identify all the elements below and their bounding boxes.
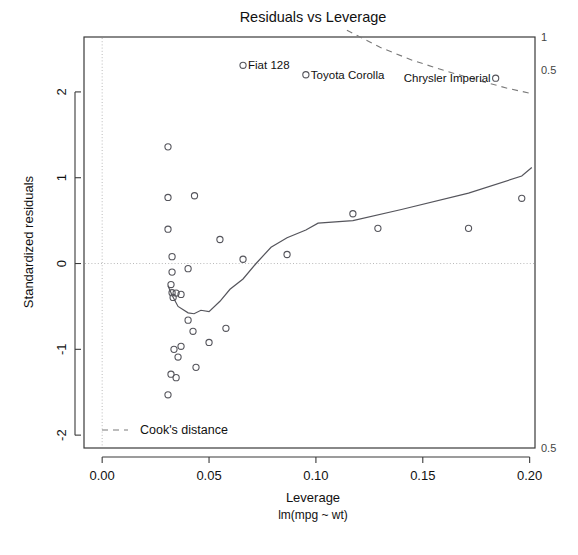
x-axis-tick-label: 0.15 (410, 468, 435, 483)
cooks-contour-value-label: 1 (541, 31, 547, 43)
data-point (240, 62, 246, 68)
data-point (465, 225, 471, 231)
data-point (519, 195, 525, 201)
outlier-labels: Fiat 128Toyota CorollaChrysler Imperial (248, 59, 491, 84)
x-axis-tick-label: 0.10 (303, 468, 328, 483)
cooks-contour-value-labels: 10.50.5 (541, 31, 556, 454)
data-point (303, 72, 309, 78)
data-point (223, 325, 229, 331)
y-axis-tick-label: 1 (55, 174, 70, 181)
data-point (350, 211, 356, 217)
cooks-contour-value-label: 0.5 (541, 442, 556, 454)
x-axis-tick-label: 0.00 (90, 468, 115, 483)
x-axis: 0.000.050.100.150.20 (90, 457, 543, 483)
data-point (206, 339, 212, 345)
plot-panel-border (84, 37, 535, 448)
data-point (185, 266, 191, 272)
cooks-contour-value-label: 0.5 (541, 64, 556, 76)
chart-canvas: Fiat 128Toyota CorollaChrysler Imperial … (0, 0, 578, 555)
data-point (240, 256, 246, 262)
y-axis-tick-label: -2 (55, 429, 70, 441)
data-point (493, 75, 499, 81)
data-point (165, 194, 171, 200)
x-axis-tick-label: 0.05 (196, 468, 221, 483)
x-axis-subtitle: lm(mpg ~ wt) (278, 508, 348, 522)
data-point (190, 328, 196, 334)
data-point (217, 236, 223, 242)
chart-title: Residuals vs Leverage (240, 9, 387, 25)
point-label: Toyota Corolla (311, 69, 385, 81)
x-axis-tick-label: 0.20 (517, 468, 542, 483)
data-point (169, 254, 175, 260)
data-point (165, 144, 171, 150)
data-point (173, 375, 179, 381)
data-point (178, 343, 184, 349)
data-point (185, 317, 191, 323)
legend-label-cooks-distance: Cook's distance (140, 423, 228, 437)
point-label: Fiat 128 (248, 59, 290, 71)
y-axis-tick-label: -1 (55, 344, 70, 356)
data-point (375, 225, 381, 231)
data-point (168, 281, 174, 287)
data-point (169, 269, 175, 275)
residuals-vs-leverage-plot: Fiat 128Toyota CorollaChrysler Imperial … (0, 0, 578, 555)
reference-gridlines (85, 38, 534, 447)
scatter-points (165, 62, 525, 398)
data-point (191, 193, 197, 199)
legend: Cook's distance (102, 423, 228, 437)
data-point (193, 364, 199, 370)
data-point (165, 226, 171, 232)
x-axis-title: Leverage (286, 490, 340, 505)
data-point (175, 354, 181, 360)
data-point (284, 251, 290, 257)
y-axis-tick-label: 0 (55, 260, 70, 267)
point-label: Chrysler Imperial (404, 72, 491, 84)
data-point (171, 346, 177, 352)
y-axis: 210-1-2 (55, 88, 82, 441)
data-point (165, 392, 171, 398)
y-axis-title: Standardized residuals (21, 175, 36, 308)
y-axis-tick-label: 2 (55, 88, 70, 95)
